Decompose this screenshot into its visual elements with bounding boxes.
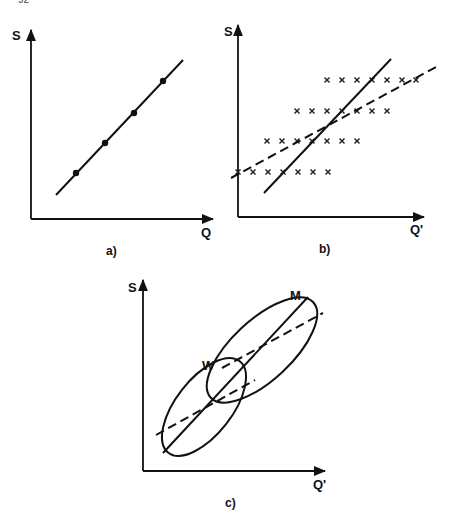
panel-c-y-axis-label: S [128,281,137,294]
panel-c-solid-line [163,297,308,453]
panel-b-x-axis-label: Q' [410,223,423,236]
x-marker [265,139,270,144]
data-point [160,78,166,84]
x-marker [280,139,285,144]
x-marker [370,109,375,114]
x-marker [385,109,390,114]
panel-a-y-axis-label: S [12,29,21,42]
x-marker [325,78,330,83]
panel-c-caption: c) [225,497,236,509]
x-marker [340,139,345,144]
x-marker [355,139,360,144]
panel-a-caption: a) [106,245,117,257]
panel-b-dashed-line [231,67,436,178]
x-marker [385,78,390,83]
x-marker [355,78,360,83]
panel-a [31,30,213,219]
x-marker [266,170,271,175]
data-point [73,170,79,176]
x-marker [325,139,330,144]
x-marker [251,170,256,175]
panel-c-x-axis-label: Q' [313,478,326,491]
panel-b-caption: b) [319,243,330,255]
panel-b-y-axis-label: S [224,25,233,38]
x-marker [400,78,405,83]
x-marker [326,170,331,175]
panel-a-x-axis-label: Q [201,226,211,239]
data-point [102,140,108,146]
group-label-w: W [202,359,214,372]
x-marker [325,109,330,114]
x-marker [296,170,301,175]
x-marker [311,170,316,175]
x-marker [310,109,315,114]
x-marker [295,109,300,114]
panel-c [143,280,334,471]
group-label-m: M [290,289,301,302]
panel-b [231,25,436,217]
x-marker [340,78,345,83]
ellipse-m [190,280,333,419]
data-point [131,110,137,116]
figure-canvas [0,0,451,520]
